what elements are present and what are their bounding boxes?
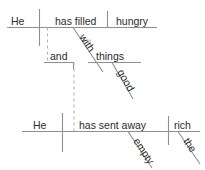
- sentence-diagram: He has filled hungry with things good an…: [0, 0, 205, 170]
- word-rich: rich: [174, 119, 191, 131]
- word-he-bottom: He: [33, 119, 47, 131]
- diagram-canvas: He has filled hungry with things good an…: [0, 0, 205, 170]
- word-with: with: [77, 31, 98, 54]
- word-has-sent-away: has sent away: [79, 119, 147, 131]
- word-empty: empty: [131, 136, 157, 167]
- word-the: the: [181, 136, 199, 155]
- word-has-filled: has filled: [55, 15, 97, 27]
- word-hungry: hungry: [116, 15, 149, 27]
- word-and: and: [50, 50, 68, 62]
- word-good: good: [115, 67, 137, 93]
- word-things: things: [96, 50, 124, 62]
- word-he-top: He: [11, 15, 25, 27]
